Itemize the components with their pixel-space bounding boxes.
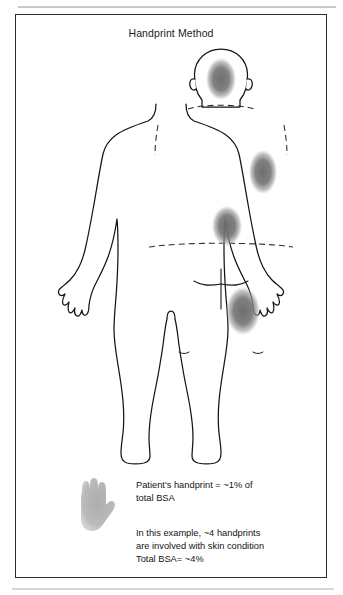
lesion-mid-back: [212, 206, 242, 246]
figure-frame: Handprint Method: [15, 14, 327, 578]
lesion-right-thigh: [226, 287, 260, 335]
lesion-left-shoulder: [249, 150, 277, 194]
figure-page: Handprint Method: [0, 0, 343, 595]
left-knee-crease: [253, 352, 263, 354]
caption-handprint-rule: Patient's handprint = ~1% of total BSA: [136, 479, 253, 505]
handprint-silhouette-icon: [68, 475, 118, 537]
body-ear-right: [190, 79, 196, 90]
page-bottom-rule: [12, 588, 334, 590]
page-top-rule: [18, 6, 336, 8]
lesion-head: [206, 58, 236, 100]
body-ear-left: [246, 79, 252, 90]
caption-example-calculation: In this example, ~4 handprints are invol…: [136, 527, 264, 567]
figure-title: Handprint Method: [16, 27, 326, 39]
body-diagram: [16, 41, 326, 481]
left-axilla-dashed-line: [284, 125, 287, 155]
body-torso-outline: [59, 104, 284, 464]
